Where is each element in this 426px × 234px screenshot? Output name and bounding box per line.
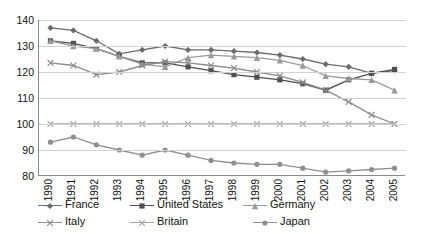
- data-point-marker: [48, 140, 53, 145]
- data-point-marker: [139, 47, 145, 53]
- legend-swatch-icon: [130, 200, 154, 211]
- legend-swatch-icon: [38, 217, 62, 228]
- line-chart: 1401301201101009080 19901991199219931994…: [0, 0, 426, 234]
- data-point-marker: [94, 142, 99, 147]
- gridline: [39, 98, 406, 99]
- legend-label: Italy: [65, 216, 85, 228]
- series-france: [47, 25, 397, 77]
- legend-swatch-icon: [253, 217, 277, 228]
- y-axis-tick-label: 130: [0, 41, 34, 51]
- legend-row: FranceUnited StatesGermany: [38, 197, 418, 213]
- legend-item-italy[interactable]: Italy: [38, 216, 85, 228]
- data-point-marker: [346, 64, 352, 70]
- series-line: [50, 137, 394, 172]
- data-point-marker: [70, 27, 76, 33]
- data-point-marker: [208, 158, 213, 163]
- series-line: [50, 62, 394, 124]
- data-point-marker: [391, 87, 397, 93]
- legend-item-united-states[interactable]: United States: [130, 199, 223, 211]
- data-point-marker: [300, 166, 305, 171]
- gridline: [39, 124, 406, 125]
- data-point-marker: [71, 134, 76, 139]
- gridline: [39, 46, 406, 47]
- legend-label: Germany: [270, 199, 315, 211]
- data-point-marker: [140, 153, 145, 158]
- plot-area: [38, 20, 405, 176]
- series-italy: [48, 59, 398, 127]
- data-point-marker: [323, 61, 329, 67]
- data-point-marker: [47, 25, 53, 31]
- legend-swatch-icon: [243, 200, 267, 211]
- data-point-marker: [369, 167, 374, 172]
- legend-swatch-icon: [38, 200, 62, 211]
- series-japan: [48, 134, 397, 174]
- legend-item-germany[interactable]: Germany: [243, 199, 315, 211]
- data-point-marker: [185, 47, 191, 53]
- legend-label: France: [65, 199, 99, 211]
- data-point-marker: [346, 168, 351, 173]
- y-axis-tick-label: 80: [0, 171, 34, 181]
- legend-label: Japan: [280, 216, 310, 228]
- legend-swatch-icon: [130, 217, 154, 228]
- data-point-marker: [300, 56, 306, 62]
- data-point-marker: [231, 160, 236, 165]
- data-point-marker: [277, 162, 282, 167]
- legend-row: ItalyBritainJapan: [38, 214, 418, 230]
- data-point-marker: [346, 99, 352, 105]
- gridline: [39, 72, 406, 73]
- legend-item-britain[interactable]: Britain: [130, 216, 188, 228]
- data-point-marker: [185, 153, 190, 158]
- gridline: [39, 150, 406, 151]
- y-axis-tick-label: 90: [0, 145, 34, 155]
- data-point-marker: [392, 166, 397, 171]
- gridline: [39, 20, 406, 21]
- y-axis-tick-label: 100: [0, 119, 34, 129]
- data-point-marker: [254, 162, 259, 167]
- legend-label: United States: [157, 199, 223, 211]
- y-axis-tick-label: 110: [0, 93, 34, 103]
- data-point-marker: [254, 75, 259, 80]
- chart-legend: FranceUnited StatesGermanyItalyBritainJa…: [38, 197, 418, 231]
- data-point-marker: [323, 170, 328, 175]
- legend-item-japan[interactable]: Japan: [253, 216, 310, 228]
- data-point-marker: [93, 38, 99, 44]
- data-point-marker: [369, 112, 375, 118]
- legend-item-france[interactable]: France: [38, 199, 99, 211]
- y-axis-tick-label: 120: [0, 67, 34, 77]
- y-axis-tick-label: 140: [0, 15, 34, 25]
- legend-label: Britain: [157, 216, 188, 228]
